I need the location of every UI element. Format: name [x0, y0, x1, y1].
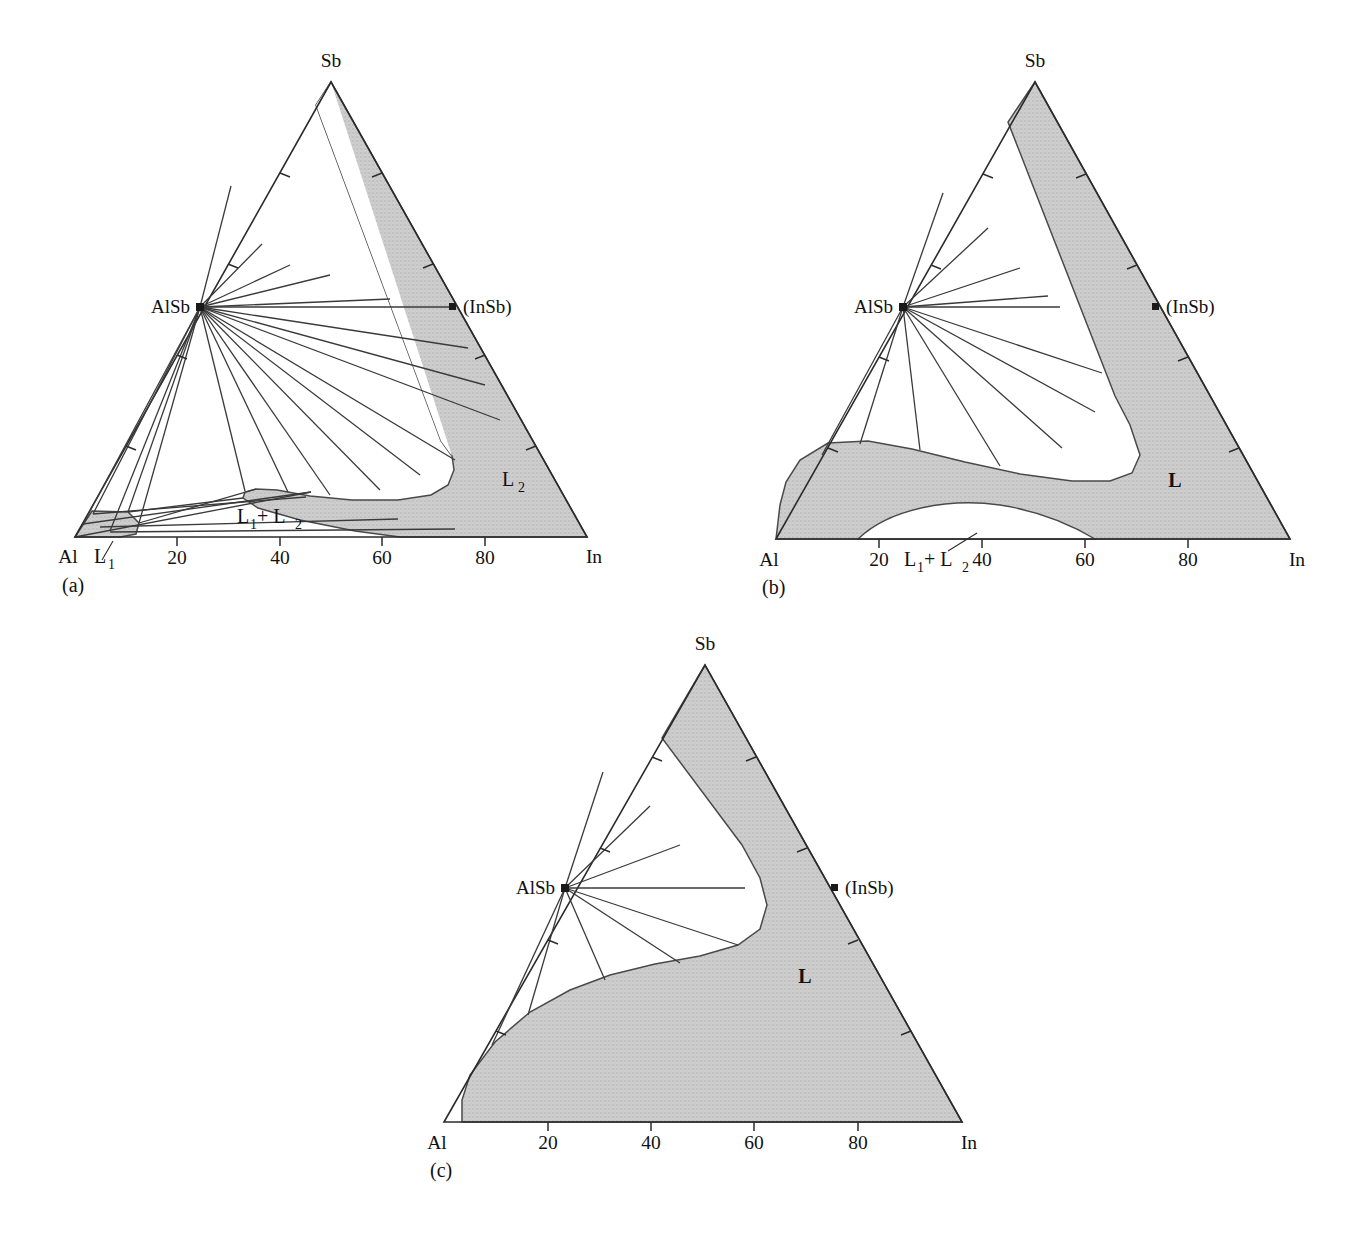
vertex-label-in: In [961, 1132, 977, 1153]
phase-label-L: L [1168, 469, 1181, 491]
vertex-label-sb: Sb [1025, 50, 1046, 71]
insb-point-marker [831, 884, 838, 891]
insb-point-marker [449, 303, 456, 310]
tick-label-80: 80 [1178, 549, 1198, 570]
phase-label-L2-sub: 2 [518, 480, 525, 495]
panel-b-ternary-diagram: Sb Al In AlSb (InSb) 20 40 60 80 L L 1 +… [690, 0, 1356, 620]
vertex-label-al: Al [759, 549, 779, 570]
panel-caption-b: (b) [762, 576, 785, 599]
phase-label-L1L2-sub1: 1 [917, 560, 924, 575]
tick-label-80: 80 [475, 547, 495, 568]
compound-label-insb: (InSb) [1166, 296, 1215, 318]
tick-label-60: 60 [744, 1132, 764, 1153]
phase-label-L1L2-mid: + L [924, 548, 953, 570]
figure-root: Sb Al In AlSb (InSb) 20 40 60 80 L 2 L 1… [0, 0, 1356, 1236]
tick-label-60: 60 [1075, 549, 1095, 570]
phase-label-L1L2-text: L [904, 548, 916, 570]
tick-label-40: 40 [270, 547, 290, 568]
tick-label-80: 80 [848, 1132, 868, 1153]
phase-label-L2-text: L [502, 468, 514, 490]
phase-label-L1L2-text: L [237, 505, 249, 527]
tick-label-20: 20 [167, 547, 187, 568]
phase-label-L1-text: L [94, 545, 106, 567]
phase-label-L1L2-sub1: 1 [250, 517, 257, 532]
panel-a-ternary-diagram: Sb Al In AlSb (InSb) 20 40 60 80 L 2 L 1… [0, 0, 680, 620]
alsb-point-marker [899, 303, 907, 311]
compound-label-alsb: AlSb [854, 296, 893, 317]
vertex-label-in: In [1289, 549, 1305, 570]
panel-caption-c: (c) [430, 1159, 452, 1182]
tick-label-60: 60 [372, 547, 392, 568]
vertex-label-in: In [586, 546, 602, 567]
tick-label-40: 40 [641, 1132, 661, 1153]
phase-label-L: L [798, 965, 811, 987]
compound-label-alsb: AlSb [151, 296, 190, 317]
vertex-label-al: Al [58, 546, 78, 567]
phase-label-L1-plus-L2: L 1 + L 2 [904, 548, 969, 575]
liquid-region-L2 [243, 82, 587, 537]
compound-label-insb: (InSb) [845, 877, 894, 899]
compound-label-insb: (InSb) [463, 296, 512, 318]
tick-label-40: 40 [972, 549, 992, 570]
vertex-label-al: Al [427, 1132, 447, 1153]
phase-label-L1: L 1 [94, 545, 115, 572]
tick-label-20: 20 [869, 549, 889, 570]
panel-c-ternary-diagram: Sb Al In AlSb (InSb) 20 40 60 80 L (c) [360, 610, 1060, 1230]
phase-label-L1-sub: 1 [108, 557, 115, 572]
vertex-label-sb: Sb [321, 50, 342, 71]
phase-label-L1L2-sub2: 2 [962, 560, 969, 575]
alsb-point-marker [561, 884, 569, 892]
alsb-point-marker [196, 303, 204, 311]
tick-label-20: 20 [538, 1132, 558, 1153]
phase-label-L1L2-mid: + L [257, 505, 286, 527]
compound-label-alsb: AlSb [516, 877, 555, 898]
phase-label-L1L2-sub2: 2 [295, 517, 302, 532]
insb-point-marker [1152, 303, 1159, 310]
vertex-label-sb: Sb [695, 633, 716, 654]
panel-caption-a: (a) [62, 574, 84, 597]
